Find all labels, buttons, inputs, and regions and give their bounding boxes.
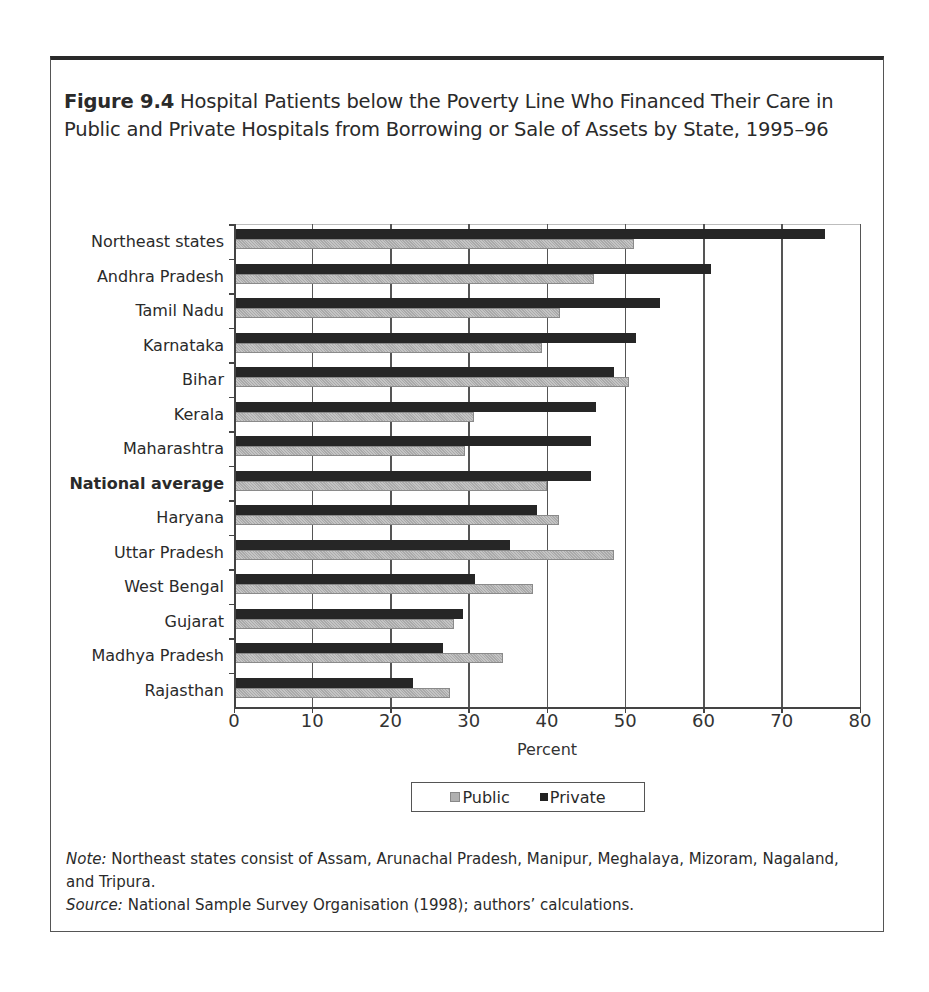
- figure-label: Figure 9.4: [64, 90, 174, 113]
- x-tick-label: 10: [301, 710, 324, 731]
- bar-public: [235, 653, 503, 663]
- bar-private: [235, 229, 825, 239]
- bar-private: [235, 540, 510, 550]
- legend-item-private: Private: [540, 788, 606, 807]
- bar-private: [235, 367, 614, 377]
- x-tick-label: 0: [228, 710, 239, 731]
- figure-title-text: Hospital Patients below the Poverty Line…: [64, 90, 833, 141]
- bar-private: [235, 298, 660, 308]
- gridline: [860, 224, 862, 707]
- gridline: [547, 224, 549, 707]
- bar-public: [235, 481, 547, 491]
- legend-label-public: Public: [462, 788, 509, 807]
- category-label: Northeast states: [91, 232, 224, 251]
- bar-private: [235, 436, 591, 446]
- legend-item-public: Public: [450, 788, 509, 807]
- bar-public: [235, 343, 542, 353]
- bar-private: [235, 402, 596, 412]
- x-tick-label: 30: [457, 710, 480, 731]
- bar-public: [235, 688, 450, 698]
- x-axis-title: Percent: [517, 740, 577, 759]
- note-label: Note:: [66, 850, 107, 868]
- bar-public: [235, 619, 454, 629]
- category-label: Uttar Pradesh: [114, 542, 224, 561]
- category-label: Haryana: [156, 508, 224, 527]
- y-axis: [234, 224, 236, 708]
- private-swatch-icon: [540, 793, 548, 801]
- category-label: Karnataka: [143, 335, 224, 354]
- bar-public: [235, 274, 594, 284]
- bar-public: [235, 550, 614, 560]
- legend: Public Private: [411, 782, 645, 812]
- bar-public: [235, 239, 634, 249]
- gridline: [781, 224, 783, 707]
- gridline: [703, 224, 705, 707]
- category-label: Bihar: [182, 370, 224, 389]
- bar-private: [235, 264, 711, 274]
- category-label: Gujarat: [165, 611, 224, 630]
- note-text: Northeast states consist of Assam, Aruna…: [66, 850, 839, 891]
- bar-public: [235, 412, 474, 422]
- x-tick-label: 80: [849, 710, 872, 731]
- bar-private: [235, 505, 537, 515]
- gridline: [312, 224, 314, 707]
- figure-title: Figure 9.4 Hospital Patients below the P…: [64, 88, 854, 144]
- bar-private: [235, 574, 475, 584]
- category-label: Tamil Nadu: [135, 301, 224, 320]
- gridline: [625, 224, 627, 707]
- bar-private: [235, 643, 443, 653]
- category-label: Madhya Pradesh: [92, 646, 225, 665]
- figure-notes: Note: Northeast states consist of Assam,…: [66, 848, 866, 917]
- category-label: National average: [69, 473, 224, 492]
- category-label: West Bengal: [124, 577, 224, 596]
- gridline: [468, 224, 470, 707]
- category-label: Rajasthan: [144, 680, 224, 699]
- category-label: Kerala: [174, 404, 224, 423]
- bar-public: [235, 584, 533, 594]
- gridline: [390, 224, 392, 707]
- bar-public: [235, 308, 560, 318]
- x-tick-label: 50: [614, 710, 637, 731]
- bar-private: [235, 609, 463, 619]
- bar-private: [235, 471, 591, 481]
- source-text: National Sample Survey Organisation (199…: [123, 896, 634, 914]
- legend-label-private: Private: [550, 788, 606, 807]
- x-tick-label: 40: [536, 710, 559, 731]
- bar-public: [235, 377, 629, 387]
- category-label: Maharashtra: [123, 439, 224, 458]
- bar-private: [235, 678, 413, 688]
- x-tick-label: 70: [770, 710, 793, 731]
- source-label: Source:: [66, 896, 123, 914]
- x-tick-label: 20: [379, 710, 402, 731]
- category-label: Andhra Pradesh: [97, 266, 224, 285]
- public-swatch-icon: [450, 792, 460, 802]
- note-line: Note: Northeast states consist of Assam,…: [66, 848, 866, 894]
- bar-public: [235, 515, 559, 525]
- bar-public: [235, 446, 465, 456]
- bar-private: [235, 333, 636, 343]
- x-tick-label: 60: [692, 710, 715, 731]
- source-line: Source: National Sample Survey Organisat…: [66, 894, 866, 917]
